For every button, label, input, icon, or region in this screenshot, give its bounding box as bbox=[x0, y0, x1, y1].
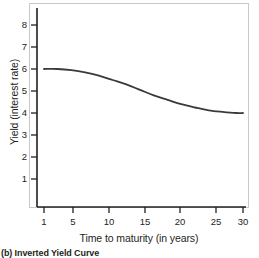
y-tick-marks bbox=[31, 25, 37, 179]
figure-container: 8 7 6 5 4 3 2 1 1 5 10 15 20 25 30 Yield… bbox=[0, 0, 259, 258]
x-tick-label-10: 10 bbox=[99, 216, 119, 227]
x-tick-label-20: 20 bbox=[170, 216, 190, 227]
yield-curve-line bbox=[44, 69, 243, 113]
x-tick-label-30: 30 bbox=[233, 216, 253, 227]
x-tick-marks bbox=[44, 207, 243, 213]
y-axis-title: Yield (interest rate) bbox=[8, 32, 20, 172]
figure-caption: (b) Inverted Yield Curve bbox=[1, 248, 99, 258]
x-tick-label-25: 25 bbox=[206, 216, 226, 227]
x-tick-label-15: 15 bbox=[135, 216, 155, 227]
y-tick-label-1: 1 bbox=[13, 173, 27, 184]
x-tick-label-1: 1 bbox=[34, 216, 54, 227]
y-tick-label-8: 8 bbox=[13, 19, 27, 30]
x-axis-title: Time to maturity (in years) bbox=[29, 232, 249, 244]
x-tick-label-5: 5 bbox=[63, 216, 83, 227]
